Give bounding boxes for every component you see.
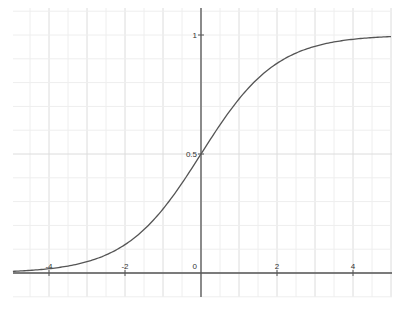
x-tick-label: 4 — [351, 262, 356, 271]
x-tick-label: 0 — [193, 262, 198, 271]
sigmoid-chart: -4-20240.51 — [0, 0, 399, 312]
x-tick-label: 2 — [275, 262, 280, 271]
x-tick-label: -4 — [45, 262, 53, 271]
x-tick-label: -2 — [121, 262, 129, 271]
y-tick-label: 0.5 — [186, 150, 198, 159]
y-tick-label: 1 — [193, 31, 198, 40]
